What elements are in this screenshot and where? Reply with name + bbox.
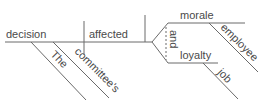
word-verb: affected [89,28,128,40]
word-conjunction: and [168,30,180,48]
word-modifier-employee: employee [219,21,261,63]
word-modifier-the: The [49,48,71,70]
word-modifier-committees: committee's [73,45,123,95]
word-object1: morale [180,9,214,21]
word-modifier-job: job [215,65,235,85]
word-object2: loyalty [180,49,212,61]
word-subject: decision [6,28,46,40]
sentence-diagram: decision affected morale loyalty and The… [0,0,263,107]
